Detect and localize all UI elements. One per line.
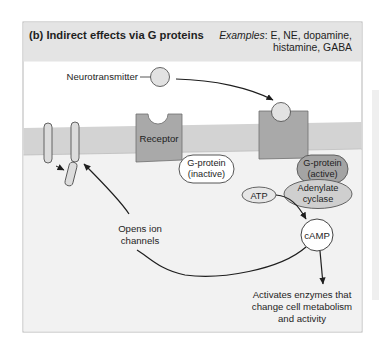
ion-channel-subunit-right [71,122,79,162]
receptor-label: Receptor [140,133,180,144]
opens-ion-channels-label-2: channels [121,235,160,246]
adenylate-cyclase: Adenylate cyclase [284,180,352,209]
bound-neurotransmitter [272,103,291,122]
neurotransmitter-label: Neurotransmitter [67,71,139,82]
adenylate-label-2: cyclase [303,194,334,204]
gprotein-active-label-2: (active) [307,169,337,179]
page-edge-shadow [372,90,379,300]
ion-channel-subunit-left [44,123,52,163]
opens-ion-channels-label-1: Opens ion [118,223,162,234]
activates-label-3: and activity [278,313,326,324]
figure-title: (b) Indirect effects via G proteins [29,29,204,41]
activates-label-2: change cell metabolism [252,301,352,312]
gprotein-inactive-label-2: (inactive) [188,169,225,179]
examples-list-1: : E, NE, dopamine, [265,30,352,41]
examples-line-1: Examples: E, NE, dopamine, [219,30,352,41]
camp: cAMP [301,219,333,251]
gprotein-active: G-protein (active) [297,155,348,183]
gprotein-inactive-label-1: G-protein [187,158,225,168]
examples-line-2: histamine, GABA [273,42,352,53]
camp-label: cAMP [304,230,330,241]
activates-label-1: Activates enzymes that [253,289,352,300]
neurotransmitter-molecule [151,68,170,87]
gprotein-active-label-1: G-protein [303,158,341,168]
diagram-canvas: (b) Indirect effects via G proteins Exam… [0,0,379,350]
receptor-active [259,103,308,160]
gprotein-inactive: G-protein (inactive) [179,155,234,183]
atp-label: ATP [250,191,267,201]
examples-label: Examples [219,30,265,41]
adenylate-label-1: Adenylate [298,183,339,193]
